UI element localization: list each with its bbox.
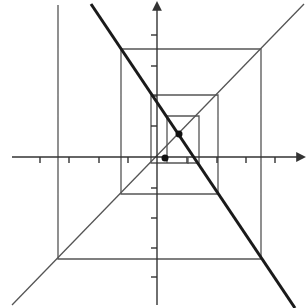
spiral-polyline xyxy=(58,5,261,259)
diagram-canvas xyxy=(0,0,308,308)
coordinate-diagram xyxy=(0,0,308,308)
spiral-path xyxy=(58,5,261,259)
intersection-point xyxy=(176,131,183,138)
start-point xyxy=(162,155,169,162)
